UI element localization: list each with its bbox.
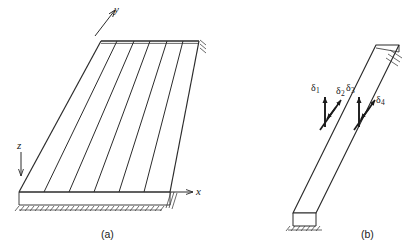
plate-thickness-face xyxy=(19,192,170,205)
figure-drawing xyxy=(0,0,418,251)
beam-base-hatching xyxy=(286,226,322,231)
dof-1-label: δ1 xyxy=(311,83,320,94)
dof-2-subscript: 2 xyxy=(341,89,345,98)
plate-rib-lines xyxy=(44,41,183,192)
plate-left-edge xyxy=(19,41,101,192)
caption-panel-b: (b) xyxy=(361,229,374,240)
dof-3-label: δ3 xyxy=(346,83,355,94)
y-axis-arrow xyxy=(95,10,115,36)
figure-container: y x z δ1 δ2 δ3 δ4 (a) (b) xyxy=(0,0,418,251)
beam-side-face xyxy=(293,213,316,226)
caption-panel-a: (a) xyxy=(101,229,114,240)
plate-right-support-hatching xyxy=(166,192,177,209)
plate-far-edge-hatching xyxy=(200,40,206,53)
z-axis-label: z xyxy=(17,140,21,151)
dof-4-symbol: δ xyxy=(376,94,381,105)
dof-3-subscript: 3 xyxy=(351,86,355,95)
dof-4-label: δ4 xyxy=(376,95,385,106)
dof-1-symbol: δ xyxy=(311,82,316,93)
dof-2-symbol: δ xyxy=(336,85,341,96)
beam-top-face xyxy=(293,45,399,213)
dof-4-subscript: 4 xyxy=(381,98,385,107)
dof-3-symbol: δ xyxy=(346,82,351,93)
plate-right-edge xyxy=(170,41,199,192)
panel-a-group xyxy=(15,10,206,211)
dof-2-label: δ2 xyxy=(336,86,345,97)
dof-1-subscript: 1 xyxy=(316,86,320,95)
plate-base-hatching xyxy=(15,206,164,211)
x-axis-label: x xyxy=(196,186,201,197)
panel-b-group xyxy=(286,45,402,231)
y-axis-label: y xyxy=(114,4,119,15)
